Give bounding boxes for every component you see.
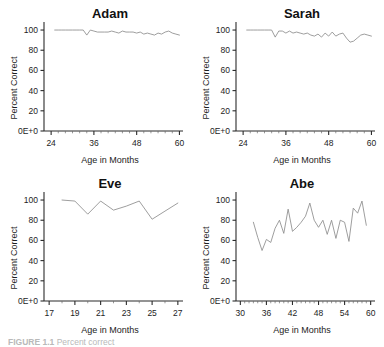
y-axis-title-abe: Percent Correct <box>201 226 211 290</box>
x-tick-label: 48 <box>314 308 324 318</box>
y-tick-label: 0E+0 <box>18 296 38 306</box>
x-tick-label: 24 <box>46 138 56 148</box>
chart-title-sarah: Sarah <box>284 6 320 21</box>
y-tick-label: 80 <box>29 215 39 225</box>
x-tick-label: 60 <box>367 138 377 148</box>
figure-caption-label: FIGURE 1.1 <box>8 337 54 347</box>
chart-panel-adam: Adam Percent Correct Age in Months 0E+02… <box>0 0 192 174</box>
figure-container: Adam Percent Correct Age in Months 0E+02… <box>0 0 384 347</box>
x-tick-label: 36 <box>89 138 99 148</box>
chart-title-abe: Abe <box>290 176 315 191</box>
y-tick-label: 0E+0 <box>18 126 38 136</box>
y-axis-title-eve: Percent Correct <box>9 226 19 290</box>
x-tick-label: 23 <box>122 308 132 318</box>
chart-svg-abe: Abe Percent Correct Age in Months 0E+020… <box>192 170 384 344</box>
x-tick-label: 36 <box>262 308 272 318</box>
data-line-abe <box>253 201 366 250</box>
x-tick-label: 21 <box>96 308 106 318</box>
y-tick-label: 0E+0 <box>210 296 230 306</box>
y-tick-label: 60 <box>221 235 231 245</box>
chart-panel-eve: Eve Percent Correct Age in Months 0E+020… <box>0 170 192 344</box>
y-tick-label: 40 <box>221 86 231 96</box>
y-tick-label: 60 <box>29 65 39 75</box>
chart-panel-abe: Abe Percent Correct Age in Months 0E+020… <box>192 170 384 344</box>
chart-title-adam: Adam <box>92 6 128 21</box>
y-tick-label: 20 <box>29 276 39 286</box>
chart-panel-sarah: Sarah Percent Correct Age in Months 0E+0… <box>192 0 384 174</box>
figure-caption: FIGURE 1.1 Percent correct <box>8 337 338 347</box>
plot-area-sarah: 0E+02040608010024364860 <box>210 22 377 148</box>
y-tick-label: 100 <box>216 25 230 35</box>
x-tick-label: 48 <box>132 138 142 148</box>
data-line-eve <box>62 200 178 219</box>
chart-svg-sarah: Sarah Percent Correct Age in Months 0E+0… <box>192 0 384 174</box>
x-axis-title-abe: Age in Months <box>273 325 331 335</box>
y-tick-label: 20 <box>221 276 231 286</box>
y-tick-label: 80 <box>221 215 231 225</box>
y-tick-label: 40 <box>29 86 39 96</box>
x-tick-label: 24 <box>238 138 248 148</box>
y-tick-label: 80 <box>221 45 231 55</box>
data-line-sarah <box>247 30 372 42</box>
x-tick-label: 25 <box>147 308 157 318</box>
chart-svg-eve: Eve Percent Correct Age in Months 0E+020… <box>0 170 192 344</box>
y-tick-label: 40 <box>29 256 39 266</box>
y-tick-label: 100 <box>24 25 38 35</box>
x-axis-title-sarah: Age in Months <box>273 155 331 165</box>
y-tick-label: 20 <box>221 106 231 116</box>
x-axis-title-adam: Age in Months <box>81 155 139 165</box>
data-line-adam <box>55 30 180 35</box>
x-tick-label: 60 <box>175 138 185 148</box>
y-tick-label: 100 <box>216 195 230 205</box>
y-tick-label: 20 <box>29 106 39 116</box>
x-tick-label: 54 <box>340 308 350 318</box>
x-tick-label: 36 <box>281 138 291 148</box>
plot-area-abe: 0E+020406080100303642485460 <box>210 192 376 318</box>
y-tick-label: 40 <box>221 256 231 266</box>
x-tick-label: 42 <box>288 308 298 318</box>
y-tick-label: 60 <box>221 65 231 75</box>
x-tick-label: 17 <box>44 308 54 318</box>
y-axis-title-adam: Percent Correct <box>9 56 19 120</box>
plot-area-eve: 0E+020406080100171921232527 <box>18 192 183 318</box>
y-axis-title-sarah: Percent Correct <box>201 56 211 120</box>
plot-area-adam: 0E+02040608010024364860 <box>18 22 185 148</box>
y-tick-label: 60 <box>29 235 39 245</box>
chart-svg-adam: Adam Percent Correct Age in Months 0E+02… <box>0 0 192 174</box>
x-tick-label: 19 <box>70 308 80 318</box>
y-tick-label: 80 <box>29 45 39 55</box>
y-tick-label: 100 <box>24 195 38 205</box>
figure-caption-text: Percent correct <box>57 337 115 347</box>
x-tick-label: 27 <box>173 308 183 318</box>
y-tick-label: 0E+0 <box>210 126 230 136</box>
x-tick-label: 60 <box>366 308 376 318</box>
x-tick-label: 30 <box>236 308 246 318</box>
x-tick-label: 48 <box>324 138 334 148</box>
x-axis-title-eve: Age in Months <box>81 325 139 335</box>
chart-title-eve: Eve <box>98 176 121 191</box>
